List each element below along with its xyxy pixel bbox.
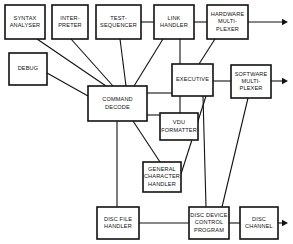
connector-link-to-command bbox=[134, 39, 163, 86]
box-label-disc-device-control-program: DISC DEVICE bbox=[190, 212, 228, 218]
box-label-disc-device-control-program: CONTROL bbox=[195, 219, 223, 225]
box-label-executive: EXECUTIVE bbox=[176, 76, 209, 82]
connector-hardware-mux-to-executive bbox=[199, 39, 215, 64]
box-label-disc-channel: CHANNEL bbox=[245, 223, 273, 229]
connector-debug-to-command bbox=[47, 73, 88, 96]
box-label-software-multiplexer: MULTI- bbox=[241, 78, 260, 84]
box-command-decode[interactable]: COMMANDDECODE bbox=[88, 86, 147, 121]
box-label-test-sequencer: SEQUENCER bbox=[100, 22, 137, 28]
box-label-vdu-formatter: VDU bbox=[173, 119, 185, 125]
box-label-general-character-handler: GENERAL bbox=[148, 166, 176, 172]
box-label-disc-file-handler: HANDLER bbox=[104, 223, 132, 229]
box-label-command-decode: DECODE bbox=[105, 104, 130, 110]
box-label-debug: DEBUG bbox=[18, 65, 39, 71]
connector-software-mux-to-ddcp bbox=[222, 98, 248, 207]
box-label-syntax-analyser: SYNTAX bbox=[14, 15, 37, 21]
box-disc-device-control-program[interactable]: DISC DEVICECONTROLPROGRAM bbox=[189, 207, 229, 239]
box-disc-channel[interactable]: DISCCHANNEL bbox=[240, 207, 278, 239]
arrow-head-software-mux-output bbox=[282, 78, 288, 84]
box-label-software-multiplexer: PLEXER bbox=[240, 85, 263, 91]
box-label-disc-file-handler: DISC FILE bbox=[104, 216, 132, 222]
connector-executive-to-ddcp bbox=[203, 96, 206, 207]
box-label-interpreter: PRETER bbox=[58, 22, 82, 28]
box-label-link-handler: LINK bbox=[167, 15, 180, 21]
box-general-character-handler[interactable]: GENERALCHARACTERHANDLER bbox=[143, 162, 181, 192]
connections-layer bbox=[37, 22, 248, 223]
box-label-hardware-multiplexer: HARDWARE bbox=[211, 11, 245, 17]
box-label-general-character-handler: CHARACTER bbox=[144, 173, 180, 179]
box-label-vdu-formatter: FORMATTER bbox=[161, 127, 197, 133]
box-hardware-multiplexer[interactable]: HARDWAREMULTI-PLEXER bbox=[207, 5, 248, 39]
box-label-disc-channel: DISC bbox=[252, 216, 266, 222]
box-executive[interactable]: EXECUTIVE bbox=[172, 64, 213, 96]
box-syntax-analyser[interactable]: SYNTAXANALYSER bbox=[5, 5, 45, 39]
box-software-multiplexer[interactable]: SOFTWAREMULTI-PLEXER bbox=[231, 65, 271, 98]
diagram-svg: SYNTAXANALYSERINTER-PRETERTEST-SEQUENCER… bbox=[0, 0, 293, 244]
arrow-head-disc-channel-output bbox=[282, 220, 288, 226]
output-arrows-layer bbox=[248, 19, 288, 226]
box-label-hardware-multiplexer: MULTI- bbox=[218, 18, 237, 24]
box-label-link-handler: HANDLER bbox=[160, 22, 188, 28]
box-test-sequencer[interactable]: TEST-SEQUENCER bbox=[96, 5, 141, 39]
box-label-general-character-handler: HANDLER bbox=[148, 181, 176, 187]
box-label-software-multiplexer: SOFTWARE bbox=[235, 71, 268, 77]
block-diagram-canvas: SYNTAXANALYSERINTER-PRETERTEST-SEQUENCER… bbox=[0, 0, 293, 244]
box-label-hardware-multiplexer: PLEXER bbox=[216, 26, 239, 32]
box-vdu-formatter[interactable]: VDUFORMATTER bbox=[160, 113, 198, 140]
box-debug[interactable]: DEBUG bbox=[9, 53, 47, 85]
box-interpreter[interactable]: INTER-PRETER bbox=[52, 5, 88, 39]
connector-command-to-gch bbox=[133, 121, 160, 162]
connector-interpreter-to-command bbox=[71, 39, 113, 86]
box-link-handler[interactable]: LINKHANDLER bbox=[154, 5, 194, 39]
connector-test-sequencer-to-command bbox=[120, 39, 126, 86]
boxes-layer: SYNTAXANALYSERINTER-PRETERTEST-SEQUENCER… bbox=[5, 5, 278, 239]
box-label-command-decode: COMMAND bbox=[102, 96, 133, 102]
arrow-head-hardware-mux-output bbox=[282, 19, 288, 25]
box-label-test-sequencer: TEST- bbox=[110, 15, 127, 21]
box-label-disc-device-control-program: PROGRAM bbox=[194, 227, 224, 233]
box-disc-file-handler[interactable]: DISC FILEHANDLER bbox=[97, 207, 139, 239]
box-label-interpreter: INTER- bbox=[60, 15, 80, 21]
box-label-syntax-analyser: ANALYSER bbox=[10, 22, 41, 28]
